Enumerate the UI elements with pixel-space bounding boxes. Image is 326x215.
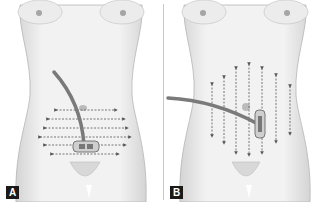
panel-b-label: B — [170, 186, 183, 199]
panel-divider — [163, 4, 164, 200]
torso-a-drawing — [0, 0, 160, 202]
drain-device — [73, 141, 99, 152]
torso-b-drawing — [166, 0, 326, 202]
panel-a-label: A — [6, 186, 19, 199]
panel-a-illustration — [0, 0, 160, 202]
panel-b-illustration — [166, 0, 326, 202]
